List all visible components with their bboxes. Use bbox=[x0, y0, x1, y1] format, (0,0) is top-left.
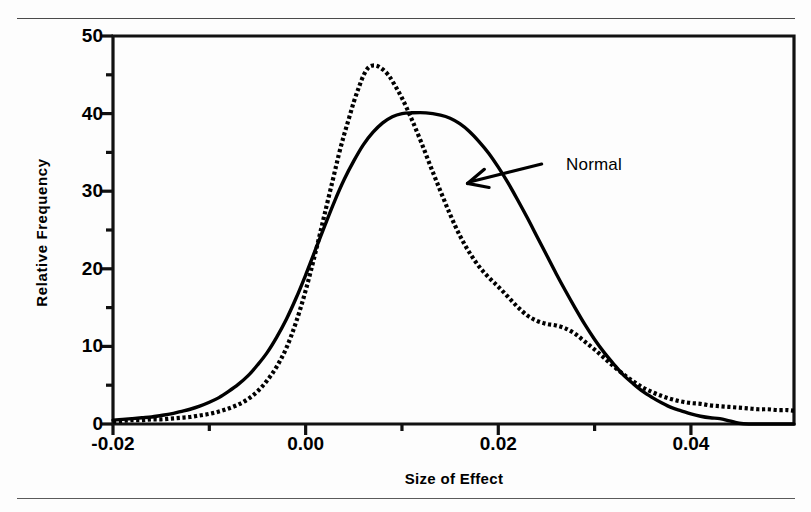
figure-container: 01020304050 -0.020.000.020.04 Relative F… bbox=[0, 0, 811, 512]
annotation-label-normal: Normal bbox=[566, 155, 622, 175]
x-tick-label: 0.02 bbox=[443, 434, 553, 453]
x-tick-label: 0.00 bbox=[251, 434, 361, 453]
y-axis-title: Relative Frequency bbox=[33, 113, 50, 353]
x-axis-title: Size of Effect bbox=[113, 470, 795, 487]
x-tick-label: 0.04 bbox=[636, 434, 746, 453]
x-tick-label: -0.02 bbox=[58, 434, 168, 453]
x-axis-tick-labels: -0.020.000.020.04 bbox=[0, 0, 811, 512]
